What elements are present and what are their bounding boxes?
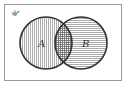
set-b-label: B bbox=[81, 38, 89, 49]
set-a-label: A bbox=[37, 38, 45, 49]
venn-diagram: 𝒰 A B bbox=[0, 0, 126, 85]
